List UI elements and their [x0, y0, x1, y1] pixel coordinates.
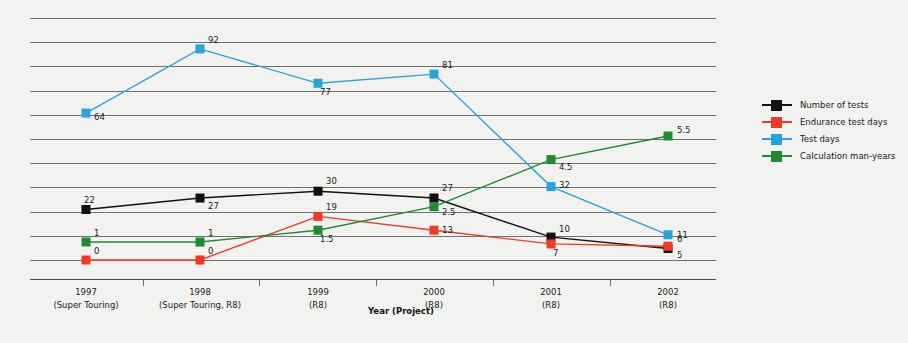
series-line-3 [86, 136, 668, 242]
data-point-label: 27 [442, 184, 453, 193]
data-point-marker [664, 242, 673, 251]
legend-swatch-icon [762, 150, 792, 162]
gridline [30, 42, 716, 43]
gridline [30, 212, 716, 213]
data-point-marker [196, 44, 205, 53]
legend-swatch-icon [762, 99, 792, 111]
data-point-marker [430, 226, 439, 235]
data-point-label: 0 [94, 247, 99, 256]
x-axis-tick [493, 280, 494, 286]
category-project: (R8) [307, 299, 329, 312]
x-axis-category-label: 2002(R8) [657, 286, 679, 312]
x-axis-tick [610, 280, 611, 286]
gridline [30, 139, 716, 140]
legend-item-2: Test days [762, 130, 895, 147]
legend-label: Test days [800, 134, 840, 144]
legend-label: Number of tests [800, 100, 869, 110]
x-axis-title: Year (Project) [368, 306, 434, 316]
chart-figure: 2227302710500191376649277813211111.52.54… [0, 0, 908, 343]
category-project: (R8) [657, 299, 679, 312]
gridline [30, 236, 716, 237]
category-project: (Super Touring, R8) [159, 299, 241, 312]
plot-area: 2227302710500191376649277813211111.52.54… [30, 8, 716, 280]
legend-label: Endurance test days [800, 117, 887, 127]
data-point-marker [82, 238, 91, 247]
data-point-label: 77 [320, 88, 331, 97]
legend-swatch-icon [762, 116, 792, 128]
category-year: 2002 [657, 286, 679, 299]
data-point-label: 5 [677, 251, 682, 260]
data-point-marker [664, 230, 673, 239]
data-point-label: 81 [442, 61, 453, 70]
data-point-label: 10 [559, 225, 570, 234]
data-point-marker [430, 202, 439, 211]
gridline [30, 18, 716, 19]
x-axis-category-label: 1997(Super Touring) [53, 286, 118, 312]
gridline [30, 260, 716, 261]
x-axis-category-label: 1998(Super Touring, R8) [159, 286, 241, 312]
gridline [30, 187, 716, 188]
x-axis-category-label: 1999(R8) [307, 286, 329, 312]
data-point-marker [196, 238, 205, 247]
data-point-marker [82, 109, 91, 118]
series-layer [30, 8, 716, 280]
category-project: (R8) [540, 299, 562, 312]
data-point-marker [196, 194, 205, 203]
legend-item-0: Number of tests [762, 96, 895, 113]
data-point-marker [430, 194, 439, 203]
legend-item-1: Endurance test days [762, 113, 895, 130]
data-point-label: 64 [94, 113, 105, 122]
x-axis-tick [259, 280, 260, 286]
data-point-label: 1 [208, 229, 213, 238]
data-point-label: 11 [677, 231, 688, 240]
x-axis-tick [143, 280, 144, 286]
gridline [30, 91, 716, 92]
data-point-label: 0 [208, 247, 213, 256]
data-point-marker [547, 233, 556, 242]
chart-legend: Number of testsEndurance test daysTest d… [762, 96, 895, 164]
data-point-marker [314, 212, 323, 221]
series-line-1 [86, 216, 668, 260]
data-point-label: 27 [208, 202, 219, 211]
gridline [30, 163, 716, 164]
category-project: (Super Touring) [53, 299, 118, 312]
data-point-label: 22 [84, 196, 95, 205]
gridline [30, 66, 716, 67]
data-point-label: 5.5 [677, 126, 691, 135]
category-year: 1998 [159, 286, 241, 299]
series-line-0 [86, 191, 668, 248]
data-point-label: 32 [559, 181, 570, 190]
data-point-label: 2.5 [442, 208, 456, 217]
data-point-label: 7 [553, 249, 558, 258]
x-axis-tick [376, 280, 377, 286]
series-line-2 [86, 49, 668, 235]
data-point-marker [664, 244, 673, 253]
data-point-label: 19 [326, 203, 337, 212]
legend-swatch-icon [762, 133, 792, 145]
data-point-label: 92 [208, 36, 219, 45]
data-point-marker [82, 205, 91, 214]
data-point-marker [430, 70, 439, 79]
gridline [30, 115, 716, 116]
category-year: 2001 [540, 286, 562, 299]
category-year: 1997 [53, 286, 118, 299]
x-axis-category-label: 2001(R8) [540, 286, 562, 312]
data-point-label: 1.5 [320, 235, 334, 244]
x-axis-line [30, 279, 716, 280]
data-point-label: 13 [442, 226, 453, 235]
legend-label: Calculation man-years [800, 151, 895, 161]
legend-item-3: Calculation man-years [762, 147, 895, 164]
data-point-label: 30 [326, 177, 337, 186]
data-point-label: 4.5 [559, 163, 573, 172]
category-year: 2000 [423, 286, 445, 299]
category-year: 1999 [307, 286, 329, 299]
data-point-label: 1 [94, 229, 99, 238]
